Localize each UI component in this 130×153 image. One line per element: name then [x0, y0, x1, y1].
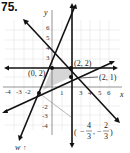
x-tick: 1 [60, 89, 64, 97]
y-tick: 6 [46, 24, 50, 32]
x-axis-label: x [119, 90, 124, 99]
point-label-0-2: (0, 2) [28, 69, 46, 78]
svg-text:3: 3 [87, 132, 91, 141]
w-axis-label: w [15, 143, 21, 152]
x-tick: -2 [25, 88, 31, 96]
svg-text:(: ( [74, 128, 77, 137]
y-tick: -4 [42, 122, 48, 130]
fraction-point-label: ( − 4 3 , − 2 3 ) [74, 121, 113, 141]
vertex-0-2 [50, 66, 54, 70]
svg-text:−: − [97, 127, 102, 136]
x-tick: -4 [5, 88, 11, 96]
y-axis-label: y [43, 8, 48, 17]
vertex-2-2 [69, 66, 73, 70]
svg-text:4: 4 [87, 121, 91, 130]
y-tick: 3 [46, 54, 50, 62]
arrow-icon [113, 66, 118, 71]
y-tick: -2 [42, 103, 48, 111]
arrow-icon [2, 109, 8, 113]
w-arrow-icon: ↑ [23, 144, 27, 152]
point-label-2-2: (2, 2) [74, 59, 92, 68]
x-tick: 5 [98, 89, 102, 97]
svg-text:3: 3 [104, 132, 108, 141]
x-tick: 3 [79, 89, 83, 97]
point-label-2-1: (2, 1) [99, 73, 117, 82]
vertex-2-1 [69, 75, 73, 79]
x-tick: -3 [16, 88, 22, 96]
svg-text:): ) [110, 128, 113, 137]
arrow-icon [4, 66, 9, 71]
svg-text:−: − [80, 127, 85, 136]
y-tick: -3 [42, 112, 48, 120]
arrow-icon [70, 143, 75, 148]
graph: x y w ↑ -4 -3 -2 1 3 4 5 6 6 5 4 3 -2 -3… [0, 0, 130, 153]
svg-text:2: 2 [104, 121, 108, 130]
y-tick: 5 [46, 34, 50, 42]
svg-text:,: , [93, 127, 95, 136]
vertex-neg-4-3 [37, 91, 41, 95]
x-tick: 6 [107, 89, 111, 97]
